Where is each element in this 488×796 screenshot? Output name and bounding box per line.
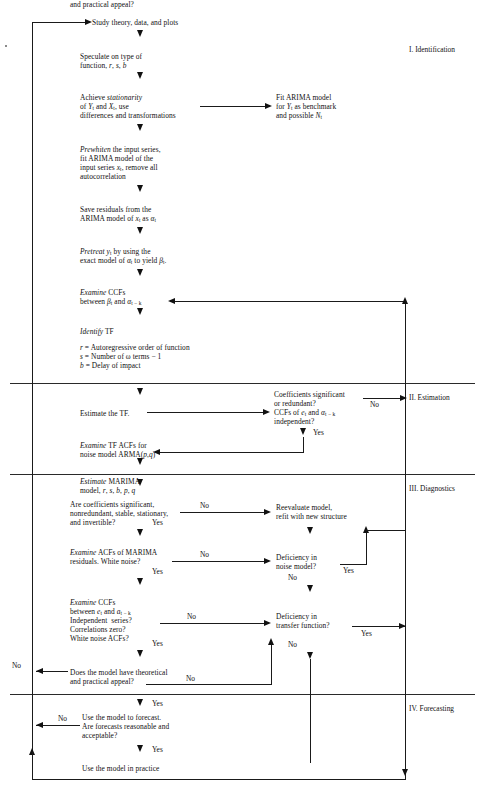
node-pretreat-line2: exact model of αt to yield βt. xyxy=(80,256,167,267)
node-appeal-line1: Does the model have theoretical xyxy=(70,668,168,677)
edge-defnoise-yes-horizontal xyxy=(340,564,367,565)
edge-examccf2-no-to-deftf xyxy=(160,623,265,624)
edge-deftf-no-vertical xyxy=(310,659,311,763)
node-examine-ccf2-line4: Correlations zero? xyxy=(70,625,126,634)
node-forecast-line1: Use the model to forecast. xyxy=(82,713,161,722)
edge-stationarity-to-fitarima xyxy=(200,106,266,107)
node-study-theory: Study theory, data, and plots xyxy=(92,18,178,27)
edge-label-forecast-no: No xyxy=(58,714,67,723)
edge-appeal-no-right-riser xyxy=(271,645,272,685)
node-forecast-line3: acceptable? xyxy=(82,731,117,740)
node-estimate-marima-line2: model, r, s, b, p, q xyxy=(80,486,135,495)
section-label-identification: I. Identification xyxy=(409,45,455,54)
edge-coef-no-to-bus xyxy=(363,398,401,399)
node-speculate-line2: function, r, s, b xyxy=(80,61,126,70)
node-examine-tf-acf-line2: noise model ARMA(p,q) xyxy=(80,450,155,459)
bottom-return-horizontal xyxy=(32,779,406,780)
section-label-diagnostics: III. Diagnostics xyxy=(409,484,455,493)
arrow-into-study-node xyxy=(85,19,92,25)
node-examine-ccf2-line1: Examine CCFs xyxy=(70,598,115,607)
node-deftf-line1: Deficiency in xyxy=(276,612,317,621)
node-identify-s: s = Number of ω terms − 1 xyxy=(80,352,161,361)
edge-arecoef-no-to-reeval xyxy=(180,512,265,513)
node-coef-line2: or redundant? xyxy=(274,399,316,408)
edge-label-deftf-no: No xyxy=(288,640,297,649)
arrow-examacf-yes-to-examccf2 xyxy=(137,578,143,585)
arrow-bus-top xyxy=(402,297,408,304)
edge-label-arecoef-no: No xyxy=(200,501,209,510)
right-feedback-bus-vertical xyxy=(405,301,406,779)
edge-label-defnoise-no: No xyxy=(288,573,297,582)
node-stationarity-line3: differences and transformations xyxy=(80,111,176,120)
node-defnoise-line1: Deficiency in xyxy=(276,553,317,562)
arrow-deftf-yes-into-bus xyxy=(399,623,406,629)
arrow-estmarima-to-arecoef xyxy=(137,479,143,486)
arrow-forecast-no-into-leftbus xyxy=(36,722,43,728)
node-fitarima-line1: Fit ARIMA model xyxy=(276,93,331,102)
arrow-examccf1-to-identify xyxy=(137,308,143,315)
edge-label-deftf-yes: Yes xyxy=(361,629,372,638)
node-use-model-in-practice: Use the model in practice xyxy=(82,764,159,773)
edge-label-defnoise-yes: Yes xyxy=(343,566,354,575)
node-stationarity-line1: Achieve stationarity xyxy=(80,93,142,102)
node-fitarima-line3: and possible Nt xyxy=(276,111,322,122)
node-identify-tf: Identify TF xyxy=(80,327,114,336)
node-estimate-marima-line1: Estimate MARIMA xyxy=(80,477,140,486)
node-save-residuals-line1: Save residuals from the xyxy=(80,205,151,214)
edge-label-examccf2-no: No xyxy=(187,612,196,621)
node-examine-acf-line2: residuals. White noise? xyxy=(70,557,140,566)
node-examine-acf-line1: Examine ACFs of MARIMA xyxy=(70,548,157,557)
arrow-into-coefcheck xyxy=(263,409,270,415)
node-arecoef-line3: and invertible? xyxy=(70,518,115,527)
scan-artifact xyxy=(5,45,7,47)
arrow-appeal-no-up-into-deftf xyxy=(268,638,274,645)
arrow-feedback-into-examccf1 xyxy=(168,298,175,304)
edge-label-coef-yes: Yes xyxy=(313,428,324,437)
node-examine-ccf2-line5: White noise ACFs? xyxy=(70,634,129,643)
node-speculate-line1: Speculate on type of xyxy=(80,52,142,61)
edge-label-forecast-yes: Yes xyxy=(152,745,163,754)
edge-defnoise-yes-to-bus xyxy=(366,530,406,531)
node-examine-ccf2-line3: Independent series? xyxy=(70,616,132,625)
edge-label-coef-no: No xyxy=(370,400,379,409)
node-examine-tf-acf-line1: Examine TF ACFs for xyxy=(80,441,147,450)
arrow-reevaluate-to-defnoise xyxy=(307,527,313,534)
arrow-into-defnoise xyxy=(264,558,271,564)
arrow-coef-yes-down xyxy=(300,428,306,435)
arrow-pretreat-to-examccf1 xyxy=(137,269,143,276)
edge-deftf-yes-to-bus xyxy=(352,626,406,627)
node-appeal-line2b: and practical appeal? xyxy=(70,677,134,686)
section-label-estimation: II. Estimation xyxy=(409,393,450,402)
arrow-deftf-no-down xyxy=(307,652,313,659)
edge-appeal-no-right-horizontal xyxy=(146,684,272,685)
node-identify-b: b = Delay of impact xyxy=(80,361,141,370)
arrow-arecoef-yes-to-examacf xyxy=(137,529,143,536)
edge-label-appeal-no-right: No xyxy=(186,674,195,683)
arrow-into-reevaluate xyxy=(264,509,271,515)
edge-estimatetf-to-coefcheck xyxy=(147,412,264,413)
node-arecoef-line2: nonredundant, stable, stationary, xyxy=(70,509,168,518)
node-prewhiten-line1: Prewhiten the input series, xyxy=(80,145,161,154)
node-examine-ccf1-line1: Examine CCFs xyxy=(80,288,125,297)
edge-examacf-no-to-defnoise xyxy=(172,561,265,562)
arrow-save-to-pretreat xyxy=(137,227,143,234)
edge-coefyes-to-examtfacf xyxy=(160,452,304,453)
left-return-bus-vertical xyxy=(32,22,33,779)
node-coef-line1: Coefficients significant xyxy=(274,390,345,399)
edge-feedback-bus-to-examccf1 xyxy=(175,301,406,302)
node-coef-line4: independent? xyxy=(274,417,314,426)
node-prewhiten-line2: fit ARIMA model of the xyxy=(80,154,153,163)
edge-label-examacf-yes: Yes xyxy=(152,567,163,576)
node-defnoise-line2: noise model? xyxy=(276,562,316,571)
arrow-bus-into-bottom-line xyxy=(402,769,408,776)
edge-coefyes-riser xyxy=(303,437,304,453)
arrow-appeal-yes-to-forecast xyxy=(137,699,143,706)
node-identify-r: r = Autoregressive order of function xyxy=(80,343,190,352)
bottom-return-riser xyxy=(32,752,33,780)
node-examine-ccf1-line2: between βt and αt − k xyxy=(80,297,141,308)
arrow-identify-to-estimate-tf xyxy=(137,388,143,395)
edge-label-appeal-yes: Yes xyxy=(152,699,163,708)
node-forecast-line2: Are forecasts reasonable and xyxy=(82,722,169,731)
flowchart-canvas: I. Identification II. Estimation III. Di… xyxy=(0,0,488,796)
node-prewhiten-line4: autocorrelation xyxy=(80,172,126,181)
